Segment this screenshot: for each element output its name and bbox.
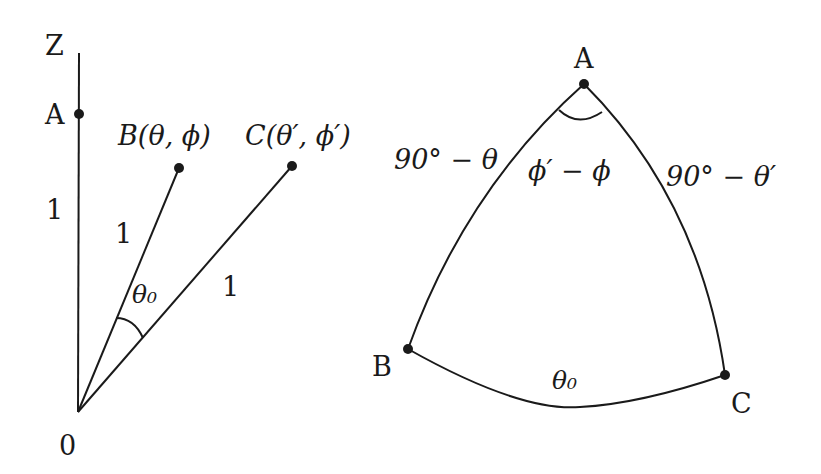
- length-oa-label: 1: [46, 196, 63, 223]
- side-bc-label: θ₀: [552, 368, 577, 393]
- point-b-label: B(θ, ϕ): [118, 122, 211, 149]
- length-oc-label: 1: [222, 273, 239, 300]
- point-b-dot: [174, 163, 184, 173]
- length-ob-label: 1: [115, 220, 132, 247]
- vertex-c-label: C: [731, 390, 752, 417]
- arc-ab: [408, 84, 584, 349]
- z-axis-label: Z: [45, 32, 64, 59]
- vertex-b-label: B: [372, 353, 392, 380]
- vector-ob-line: [78, 168, 179, 412]
- side-ab-label: 90° − θ: [394, 146, 498, 173]
- origin-label: 0: [59, 432, 76, 459]
- vertex-a-dot: [579, 79, 589, 89]
- arc-ac: [584, 84, 725, 375]
- point-a-label: A: [45, 101, 65, 128]
- vertex-b-dot: [403, 344, 413, 354]
- vector-oc-line: [78, 166, 292, 412]
- angle-theta0-label: θ₀: [132, 282, 157, 307]
- point-a-dot: [74, 109, 84, 119]
- point-c-label: C(θ′, ϕ′): [245, 122, 351, 149]
- side-ac-label: 90° − θ′: [666, 163, 776, 190]
- vertex-a-label: A: [574, 45, 594, 72]
- z-axis-line: [78, 53, 79, 412]
- angle-a-arc: [559, 110, 602, 120]
- spherical-triangle-figure: Z A B(θ, ϕ) C(θ′, ϕ′) 1 1 1 θ₀ 0 A 90° −…: [0, 0, 821, 474]
- vertex-c-dot: [720, 370, 730, 380]
- angle-a-label: ϕ′ − ϕ: [528, 157, 611, 184]
- angle-theta0-arc: [116, 318, 143, 338]
- point-c-dot: [287, 161, 297, 171]
